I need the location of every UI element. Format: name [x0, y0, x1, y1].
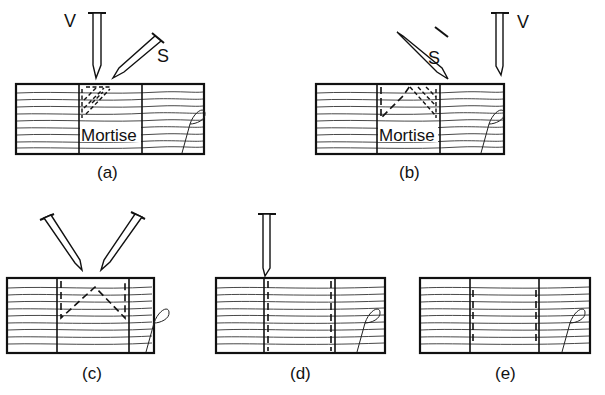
wood-grain: [421, 287, 589, 344]
tool-label-s: S: [428, 48, 440, 68]
slanted-chisel-icon: [397, 27, 448, 79]
panel-d: (d): [216, 214, 385, 383]
slanted-chisel-icon: [40, 214, 82, 270]
wood-grain: [8, 287, 152, 344]
slanted-chisel-icon: [101, 212, 145, 270]
cut-outline: [61, 281, 125, 318]
vertical-chisel-icon: [88, 13, 106, 78]
tool-label-s: S: [157, 46, 169, 66]
vertical-chisel-icon: [258, 214, 276, 276]
mortise-label: Mortise: [379, 126, 435, 145]
caption-e: (e): [495, 364, 516, 383]
mortise-diagram: V S: [0, 0, 605, 395]
wood-grain: [217, 287, 384, 344]
panel-b: S V Mortise: [316, 12, 529, 182]
tool-label-v: V: [517, 12, 529, 32]
mortise-label: Mortise: [81, 126, 137, 145]
caption-c: (c): [82, 364, 102, 383]
caption-d: (d): [290, 364, 311, 383]
panel-c: (c): [7, 212, 169, 383]
cut-outline: [381, 86, 410, 118]
panel-e: (e): [420, 278, 590, 383]
tool-label-v: V: [64, 11, 76, 31]
panel-a: V S: [16, 11, 205, 182]
caption-a: (a): [97, 163, 118, 182]
cut-hatching: [82, 87, 110, 118]
vertical-chisel-icon: [491, 13, 509, 75]
caption-b: (b): [399, 163, 420, 182]
